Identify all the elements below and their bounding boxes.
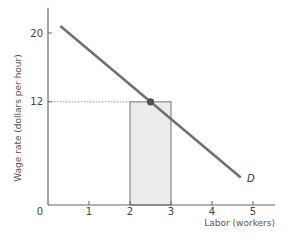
origin-label: 0: [37, 206, 43, 217]
x-axis-title: Labor (workers): [204, 218, 275, 228]
y-tick-label: 20: [30, 28, 43, 39]
x-tick-label: 1: [86, 206, 92, 217]
y-tick-label: 12: [30, 96, 43, 107]
equilibrium-point: [147, 98, 154, 105]
x-tick-label: 2: [127, 206, 133, 217]
x-tick-label: 5: [250, 206, 256, 217]
plot-area: D: [48, 26, 255, 205]
shaded-bar: [130, 102, 171, 205]
y-axis-title: Wage rate (dollars per hour): [13, 54, 23, 182]
x-tick-label: 3: [168, 206, 174, 217]
curve-label-d: D: [247, 173, 255, 184]
labor-demand-chart: D 123451220 Wage rate (dollars per hour)…: [0, 0, 289, 238]
x-tick-label: 4: [209, 206, 215, 217]
